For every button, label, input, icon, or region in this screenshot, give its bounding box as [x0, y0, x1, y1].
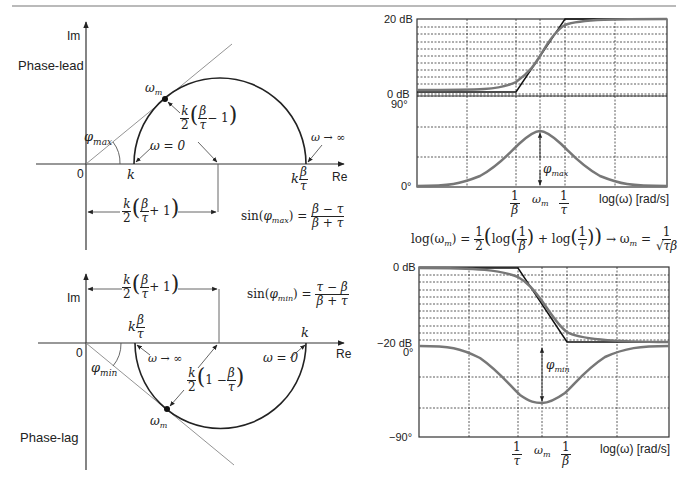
bode-lag-plot	[419, 267, 669, 437]
lead-radius-arrow-bot	[198, 142, 217, 162]
lag-center-label: k2(βτ+ 1)	[122, 273, 179, 301]
lag-origin-label: 0	[76, 347, 83, 359]
bode-lag-deg-bot: −90°	[389, 432, 412, 443]
bode-lag-tick-1-over-tau: 1τ	[512, 441, 522, 467]
bode-lag-phimin-label: φmin	[546, 359, 570, 374]
bode-lag-db-top: 0 dB	[393, 262, 416, 273]
bode-lag-vgrid	[469, 267, 617, 437]
bode-lag-tick-wm: ωm	[534, 445, 551, 459]
bode-lead-mag-frame	[417, 19, 667, 187]
lead-k-label: k	[127, 168, 135, 181]
lead-kbeta-tau-label: kβτ	[291, 166, 308, 192]
lead-sin-formula: sin(φmax) = β − τβ + τ	[241, 203, 344, 229]
bode-lag-mag-curve	[419, 268, 669, 342]
bode-lag-xaxis-label: log(ω) [rad/s]	[600, 443, 670, 455]
lead-center-label: k2(βτ+ 1)	[122, 197, 179, 225]
lead-wm-label: ωm	[145, 82, 162, 97]
lag-im-label: Im	[67, 292, 80, 304]
lag-radius-arrow-bot	[170, 390, 184, 406]
lead-im-label: Im	[67, 30, 80, 42]
bode-lead-vgrid	[467, 19, 615, 187]
lead-title: Phase-lead	[18, 59, 84, 72]
bode-lag-frame	[419, 267, 669, 437]
lag-phimin-label: φmin	[91, 361, 117, 378]
bode-lead-mag-curve	[417, 19, 667, 90]
bode-lead-phase-curve	[417, 131, 667, 186]
lead-phimax-label: φmax	[84, 130, 112, 147]
bode-lag-phase-curve	[419, 346, 669, 403]
bode-lead-tick-1-over-beta: 1β	[510, 190, 520, 216]
omega-m-formula: log(ωm) = 12(log(1β) + log(1τ)) → ωm = 1…	[411, 226, 678, 253]
bode-lead-mag-hgrid	[417, 27, 667, 96]
lag-radius-label: k2(1 −βτ)	[187, 366, 244, 394]
bode-lag-deg-top: 0°	[403, 347, 414, 358]
lag-k-label: k	[301, 326, 309, 339]
bode-lead-deg-top: 90°	[391, 99, 408, 110]
lead-origin-label: 0	[77, 168, 84, 180]
lead-angle-arc	[113, 142, 120, 164]
lag-kbeta-tau-label: kβτ	[128, 314, 145, 340]
lead-winf-arrow	[308, 145, 322, 162]
bode-lead-db-top: 20 dB	[384, 14, 413, 25]
bode-lead-tick-wm: ωm	[532, 194, 549, 208]
lead-w0-label: ω = 0	[150, 140, 185, 152]
bode-lag-tick-1-over-beta: 1β	[561, 441, 571, 467]
lag-winf-label: ω → ∞	[148, 353, 182, 364]
lag-sin-formula: sin(φmin) = τ − ββ + τ	[247, 281, 349, 307]
bode-lead-deg-bot: 0°	[401, 181, 412, 192]
lead-radius-label: k2(βτ− 1)	[180, 104, 237, 132]
bode-lead-phimax-label: φmax	[543, 163, 568, 178]
lag-title: Phase-lag	[20, 431, 79, 444]
bode-lead-plot	[417, 19, 667, 187]
lead-re-label: Re	[332, 171, 347, 183]
lead-wm-point	[162, 96, 168, 102]
lag-wm-point	[164, 406, 170, 412]
lead-radius-arrow-top	[168, 102, 180, 113]
bode-lead-mag-asymptote	[417, 19, 667, 92]
bode-lead-xaxis-label: log(ω) [rad/s]	[599, 193, 669, 205]
lag-re-label: Re	[336, 348, 351, 360]
lead-winf-label: ω → ∞	[311, 132, 345, 143]
lag-w0-label: ω = 0	[263, 352, 298, 364]
bode-lead-tick-1-over-tau: 1τ	[559, 190, 569, 216]
lag-wm-label: ωm	[150, 415, 167, 430]
